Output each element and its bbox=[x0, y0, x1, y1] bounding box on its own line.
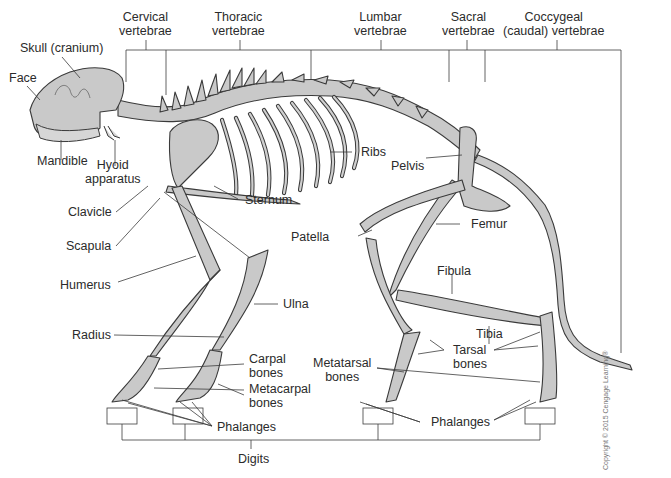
label-radius: Radius bbox=[72, 328, 111, 342]
scapula-bone bbox=[169, 120, 218, 188]
label-tarsal-bones: Tarsal bones bbox=[453, 343, 487, 371]
label-scapula: Scapula bbox=[66, 239, 111, 253]
label-pelvis: Pelvis bbox=[391, 159, 424, 173]
label-line: Hyoid bbox=[85, 158, 141, 172]
label-line: vertebrae bbox=[354, 24, 407, 38]
label-lumbar-vertebrae: Lumbar vertebrae bbox=[354, 10, 407, 38]
label-face: Face bbox=[9, 71, 37, 85]
label-metatarsal-bones: Metatarsal bones bbox=[313, 356, 371, 384]
label-line: Cervical bbox=[119, 10, 172, 24]
label-mandible: Mandible bbox=[37, 154, 88, 168]
ribcage bbox=[222, 97, 357, 195]
label-carpal-bones: Carpal bones bbox=[249, 352, 286, 380]
label-ulna: Ulna bbox=[283, 297, 309, 311]
radius-ulna-left bbox=[150, 270, 220, 356]
label-metacarpal-bones: Metacarpal bones bbox=[249, 382, 311, 410]
label-sternum: Sternum bbox=[245, 193, 292, 207]
label-line: bones bbox=[313, 370, 371, 384]
label-sacral-vertebrae: Sacral vertebrae bbox=[442, 10, 495, 38]
label-line: (caudal) vertebrae bbox=[503, 24, 604, 38]
label-tibia: Tibia bbox=[476, 327, 503, 341]
label-line: Lumbar bbox=[354, 10, 407, 24]
hindfoot-left bbox=[386, 332, 420, 402]
label-line: Metacarpal bbox=[249, 382, 311, 396]
copyright-notice: Copyright © 2015 Cengage Learning® bbox=[602, 351, 609, 470]
label-humerus: Humerus bbox=[60, 278, 111, 292]
label-line: Coccygeal bbox=[503, 10, 604, 24]
label-line: vertebrae bbox=[119, 24, 172, 38]
label-line: vertebrae bbox=[212, 24, 265, 38]
label-patella: Patella bbox=[291, 230, 329, 244]
label-line: Tarsal bbox=[453, 343, 487, 357]
label-forelimb-phalanges: Phalanges bbox=[217, 420, 276, 434]
humerus-bone bbox=[172, 186, 220, 280]
label-skull: Skull (cranium) bbox=[20, 41, 103, 55]
label-clavicle: Clavicle bbox=[68, 205, 112, 219]
hindfoot-right bbox=[540, 312, 557, 402]
label-line: bones bbox=[249, 396, 311, 410]
forepaw-left bbox=[112, 356, 160, 402]
label-line: Carpal bbox=[249, 352, 286, 366]
label-digits: Digits bbox=[238, 452, 269, 466]
label-thoracic-vertebrae: Thoracic vertebrae bbox=[212, 10, 265, 38]
forepaw-right bbox=[176, 350, 222, 402]
label-line: Metatarsal bbox=[313, 356, 371, 370]
label-ribs: Ribs bbox=[361, 145, 386, 159]
label-line: vertebrae bbox=[442, 24, 495, 38]
label-line: Sacral bbox=[442, 10, 495, 24]
radius-ulna-right bbox=[212, 250, 268, 350]
label-line: bones bbox=[453, 357, 487, 371]
shin-front bbox=[366, 238, 412, 334]
label-cervical-vertebrae: Cervical vertebrae bbox=[119, 10, 172, 38]
label-hyoid-apparatus: Hyoid apparatus bbox=[85, 158, 141, 186]
label-line: bones bbox=[249, 366, 286, 380]
label-coccygeal-vertebrae: Coccygeal (caudal) vertebrae bbox=[503, 10, 604, 38]
tibia-fibula bbox=[396, 290, 548, 326]
label-femur: Femur bbox=[471, 217, 507, 231]
label-line: apparatus bbox=[85, 172, 141, 186]
hyoid-bone bbox=[104, 126, 120, 140]
label-fibula: Fibula bbox=[437, 264, 471, 278]
label-hindlimb-phalanges: Phalanges bbox=[431, 415, 490, 429]
label-line: Thoracic bbox=[212, 10, 265, 24]
